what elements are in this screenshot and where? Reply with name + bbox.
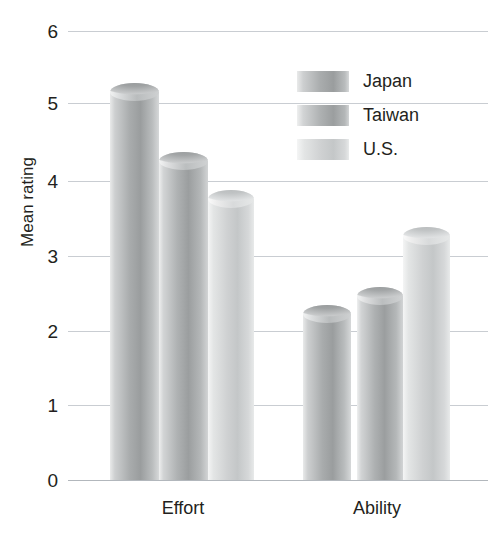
bar-ability-japan	[303, 305, 351, 480]
x-category-ability: Ability	[353, 498, 401, 519]
y-tick-0: 0	[47, 471, 58, 490]
y-tick-6: 6	[47, 22, 58, 41]
bar-cap-shading	[110, 83, 159, 101]
bar-effort-taiwan	[159, 152, 208, 480]
y-axis-title: Mean rating	[18, 132, 38, 272]
y-tick-3: 3	[47, 247, 58, 266]
y-tick-4: 4	[47, 172, 58, 191]
bar-cap-shading	[208, 190, 254, 208]
legend-label-taiwan: Taiwan	[363, 105, 419, 126]
y-tick-5: 5	[47, 94, 58, 113]
bar-cap-shading	[159, 152, 208, 170]
bar-chart: Mean rating 6 5 4 3 2 1 0	[0, 0, 488, 534]
bar-body	[110, 92, 159, 480]
x-category-effort: Effort	[162, 498, 205, 519]
bar-body	[208, 199, 254, 480]
legend-item-japan: Japan	[297, 66, 467, 96]
bar-cap-shading	[303, 305, 351, 323]
legend: Japan Taiwan U.S.	[297, 66, 467, 168]
y-tick-2: 2	[47, 322, 58, 341]
bar-body	[159, 161, 208, 480]
legend-swatch-taiwan	[297, 105, 349, 126]
bar-cap-shading	[403, 227, 450, 245]
legend-item-taiwan: Taiwan	[297, 100, 467, 130]
legend-swatch-japan	[297, 71, 349, 92]
bar-ability-taiwan	[357, 287, 403, 480]
legend-label-japan: Japan	[363, 71, 412, 92]
bar-body	[357, 296, 403, 480]
bar-ability-us	[403, 227, 450, 480]
legend-label-us: U.S.	[363, 139, 398, 160]
y-tick-1: 1	[47, 396, 58, 415]
bar-body	[303, 314, 351, 480]
bar-cap-shading	[357, 287, 403, 305]
bar-effort-japan	[110, 83, 159, 480]
bar-body	[403, 236, 450, 480]
bar-effort-us	[208, 190, 254, 480]
legend-item-us: U.S.	[297, 134, 467, 164]
legend-swatch-us	[297, 139, 349, 160]
plot-area: 6 5 4 3 2 1 0	[68, 18, 488, 488]
